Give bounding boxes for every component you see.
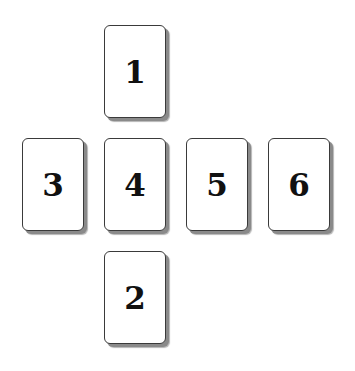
card-number-label: 2 [124, 283, 146, 314]
card-2: 2 [104, 251, 166, 344]
card-number-label: 4 [124, 170, 146, 201]
card-6: 6 [268, 138, 330, 231]
card-number-label: 1 [124, 57, 146, 88]
card-3: 3 [22, 138, 84, 231]
card-number-label: 6 [288, 170, 310, 201]
card-5: 5 [186, 138, 248, 231]
card-4: 4 [104, 138, 166, 231]
card-number-label: 3 [42, 170, 64, 201]
card-1: 1 [104, 25, 166, 118]
card-number-label: 5 [206, 170, 228, 201]
